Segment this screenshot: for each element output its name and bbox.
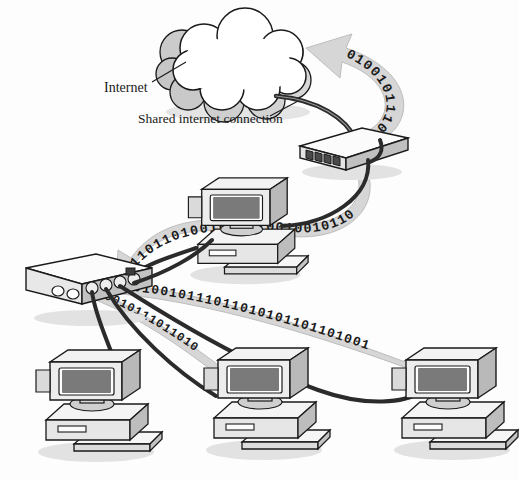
computer-right — [392, 348, 518, 460]
diagram-canvas: 001010010111011010101101101001 001011101… — [0, 0, 519, 480]
internet-cloud — [156, 8, 311, 122]
network-diagram: 001010010111011010101101101001 001011101… — [0, 0, 519, 480]
computer-middle — [204, 348, 330, 460]
label-internet: Internet — [104, 80, 148, 96]
computer-left — [36, 350, 162, 462]
label-shared-internet-connection: Shared internet connection — [138, 111, 283, 127]
hub-device — [26, 254, 152, 326]
router-device — [300, 128, 408, 180]
